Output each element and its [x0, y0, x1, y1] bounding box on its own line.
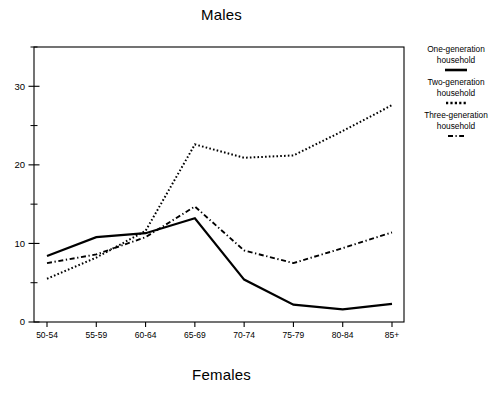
legend-label-two-generation: Two-generation household	[412, 77, 500, 98]
chart-title-bottom: Females	[0, 366, 503, 383]
chart-title-bottom-text: Females	[192, 366, 251, 383]
x-axis-tick-label: 85+	[385, 330, 399, 340]
legend-label-three-generation: Three-generation household	[412, 110, 500, 131]
x-axis-tick-label: 75-79	[283, 330, 305, 340]
series-line-solid	[47, 218, 392, 309]
x-axis-tick-label: 50-54	[36, 330, 58, 340]
y-axis-tick-label: 20	[14, 159, 25, 170]
legend-entry-one-generation: One-generation household	[412, 44, 500, 74]
dotted-line-icon	[443, 99, 469, 107]
x-axis-tick-label: 70-74	[233, 330, 255, 340]
y-axis-tick-label: 10	[14, 238, 25, 249]
legend-entry-two-generation: Two-generation household	[412, 77, 500, 107]
x-axis-tick-label: 60-64	[135, 330, 157, 340]
series-line-dotted	[47, 105, 392, 279]
x-axis-tick-label: 55-59	[85, 330, 107, 340]
legend-swatch-dash-dot	[412, 131, 500, 140]
plot-frame	[34, 47, 404, 322]
x-axis-tick-label: 80-84	[332, 330, 354, 340]
solid-line-icon	[443, 66, 469, 74]
x-axis-tick-label: 65-69	[184, 330, 206, 340]
legend-label-one-generation: One-generation household	[412, 44, 500, 65]
legend-swatch-dotted	[412, 98, 500, 107]
y-axis-tick-label: 0	[20, 316, 25, 327]
chart-figure: Males 010203050-5455-5960-6465-6970-7475…	[0, 0, 503, 406]
chart-legend: One-generation household Two-generation …	[412, 44, 500, 143]
dash-dot-line-icon	[443, 132, 469, 140]
series-line-dash-dot	[47, 207, 392, 264]
legend-entry-three-generation: Three-generation household	[412, 110, 500, 140]
legend-swatch-solid	[412, 65, 500, 74]
y-axis-tick-label: 30	[14, 81, 25, 92]
